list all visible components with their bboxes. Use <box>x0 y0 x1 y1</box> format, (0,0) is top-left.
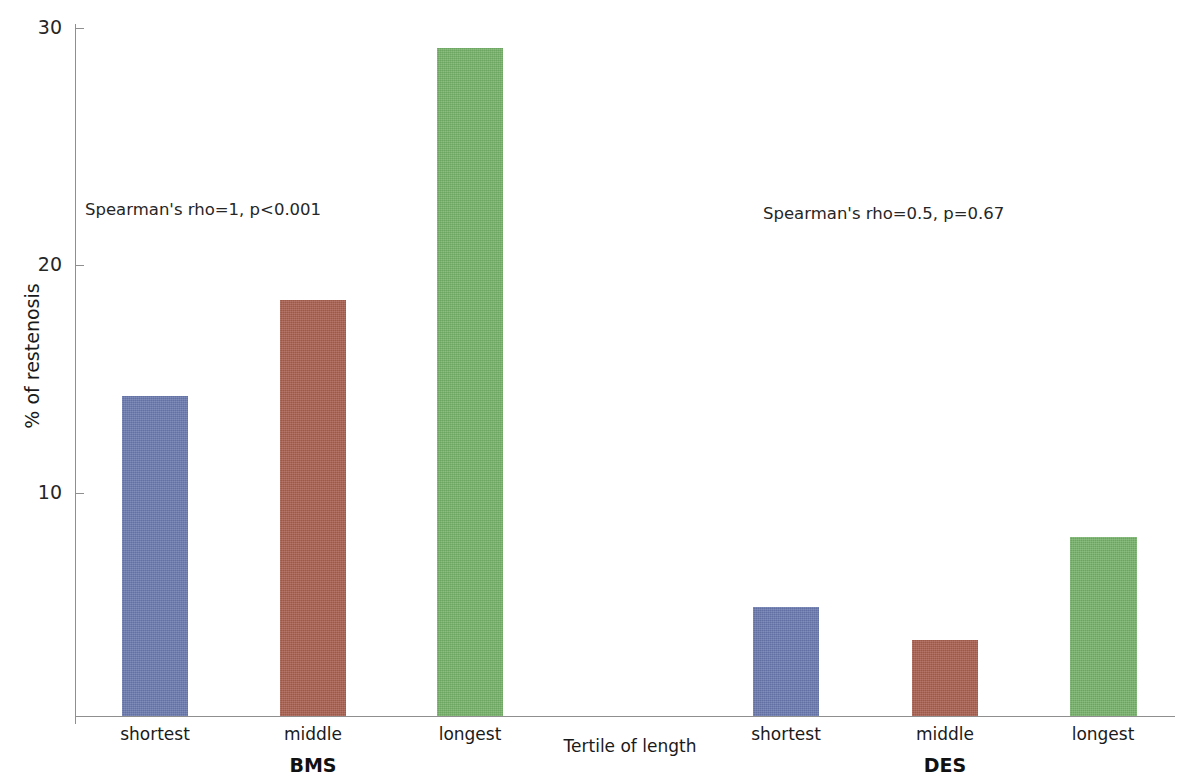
bar-fill <box>280 300 346 716</box>
annotation-bms-spearman: Spearman's rho=1, p<0.001 <box>85 202 321 219</box>
x-tick-label-des-longest: longest <box>1033 726 1173 743</box>
bar-fill <box>912 640 978 716</box>
y-axis-line <box>75 24 76 724</box>
x-axis-title: Tertile of length <box>530 738 730 755</box>
bar-fill <box>122 396 188 716</box>
bar-bms-shortest <box>122 396 188 716</box>
bar-des-shortest <box>753 607 819 716</box>
bar-des-longest <box>1070 537 1137 716</box>
x-axis-line <box>75 716 1175 717</box>
bar-fill <box>753 607 819 716</box>
x-tick-label-des-shortest: shortest <box>716 726 856 743</box>
y-axis-tick-30 <box>75 28 84 29</box>
bar-bms-middle <box>280 300 346 716</box>
x-tick-label-bms-longest: longest <box>400 726 540 743</box>
group-label-des: DES <box>875 756 1015 775</box>
y-axis-tick-20 <box>75 265 84 266</box>
y-axis-title: % of restenosis <box>21 266 43 446</box>
y-axis-tick-label-30: 30 <box>38 18 62 37</box>
y-axis-tick-10 <box>75 493 84 494</box>
y-axis-tick-label-10: 10 <box>38 483 62 502</box>
annotation-des-spearman: Spearman's rho=0.5, p=0.67 <box>763 206 1004 223</box>
bar-fill <box>1070 537 1137 716</box>
bar-bms-longest <box>437 48 503 716</box>
x-tick-label-bms-shortest: shortest <box>85 726 225 743</box>
bar-des-middle <box>912 640 978 716</box>
x-tick-label-bms-middle: middle <box>243 726 383 743</box>
restenosis-bar-chart: 30 20 10 % of restenosis shortest middle… <box>0 0 1178 783</box>
bar-fill <box>437 48 503 716</box>
group-label-bms: BMS <box>243 756 383 775</box>
x-tick-label-des-middle: middle <box>875 726 1015 743</box>
